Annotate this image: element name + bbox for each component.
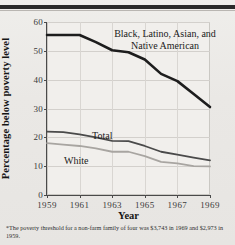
footnote: *The poverty threshold for a non-farm fa… xyxy=(6,224,230,239)
x-tick-mark xyxy=(145,195,146,198)
y-tick-label: 20 xyxy=(33,132,43,142)
y-tick-label: 0 xyxy=(38,190,43,200)
x-axis-line xyxy=(46,195,210,196)
y-tick-label: 60 xyxy=(33,17,43,27)
series-label-white: White xyxy=(64,155,88,166)
y-tick-label: 10 xyxy=(33,161,43,171)
series-label-minority: Black, Latino, Asian, and Native America… xyxy=(104,28,226,51)
x-tick-mark xyxy=(177,195,178,198)
x-axis-title: Year xyxy=(47,210,210,221)
x-tick-label: 1965 xyxy=(135,200,155,210)
y-axis-title: Percentage below poverty level xyxy=(0,22,12,195)
top-divider-rule xyxy=(0,5,235,9)
footnote-text: The poverty threshold for a non-farm fam… xyxy=(6,224,223,239)
poverty-rate-chart-figure: Percentage below poverty level 010203040… xyxy=(0,0,235,245)
x-tick-label: 1967 xyxy=(168,200,188,210)
y-tick-label: 30 xyxy=(33,104,43,114)
y-tick-label: 40 xyxy=(33,75,43,85)
x-tick-label: 1961 xyxy=(70,200,90,210)
x-tick-mark xyxy=(112,195,113,198)
series-label-total: Total xyxy=(92,130,112,141)
x-tick-label: 1963 xyxy=(102,200,122,210)
y-tick-label: 50 xyxy=(33,46,43,56)
series-label-minority-line1: Black, Latino, Asian, and xyxy=(104,28,226,40)
x-tick-mark xyxy=(210,195,211,198)
x-tick-label: 1969 xyxy=(200,200,220,210)
x-tick-mark xyxy=(47,195,48,198)
series-label-minority-line2: Native American xyxy=(104,40,226,52)
x-tick-mark xyxy=(80,195,81,198)
x-tick-label: 1959 xyxy=(37,200,57,210)
